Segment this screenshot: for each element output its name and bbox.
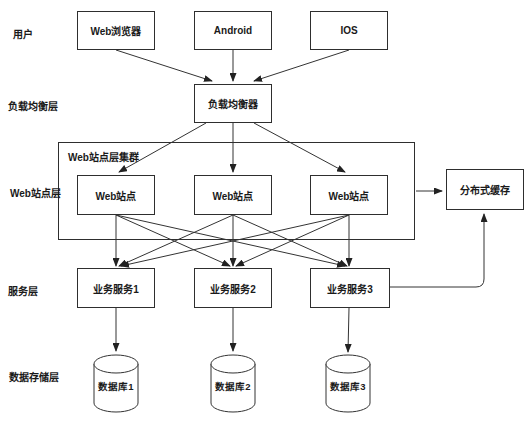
node-web-site-3: Web站点 xyxy=(310,175,388,215)
node-database-2-label: 数据库2 xyxy=(201,379,265,393)
arrow-web1-to-svc2 xyxy=(116,215,230,266)
arrow-lb-to-web1 xyxy=(119,123,206,172)
arrow-web2-to-svc3 xyxy=(233,215,347,266)
layer-label-services: 服务层 xyxy=(8,283,38,298)
arrow-svc3-to-cache xyxy=(390,214,484,287)
layer-label-storage: 数据存储层 xyxy=(9,369,59,384)
node-database-1-label: 数据库1 xyxy=(84,379,148,393)
layer-label-load-balancer: 负载均衡层 xyxy=(8,98,58,113)
node-android: Android xyxy=(194,11,272,50)
node-web-browser: Web浏览器 xyxy=(77,11,155,50)
node-distributed-cache: 分布式缓存 xyxy=(446,169,524,210)
node-service-3: 业务服务3 xyxy=(310,268,390,308)
architecture-diagram: 用户 负载均衡层 Web站点层 服务层 数据存储层 Web站点层集群 xyxy=(0,0,532,422)
node-load-balancer: 负载均衡器 xyxy=(194,84,272,123)
layer-label-users: 用户 xyxy=(13,26,33,41)
node-ios: IOS xyxy=(310,11,388,50)
node-web-site-2: Web站点 xyxy=(194,175,272,215)
node-service-1: 业务服务1 xyxy=(77,268,155,308)
layer-label-web: Web站点层 xyxy=(10,185,61,200)
node-database-3-label: 数据库3 xyxy=(316,379,380,393)
arrow-browser-to-lb xyxy=(116,50,212,81)
node-service-2: 业务服务2 xyxy=(194,268,272,308)
arrow-ios-to-lb xyxy=(254,50,349,81)
node-web-site-1: Web站点 xyxy=(77,175,155,215)
arrow-web3-to-svc2 xyxy=(236,215,349,266)
arrow-web2-to-svc1 xyxy=(119,215,233,266)
arrow-web1-to-svc3 xyxy=(116,215,345,266)
arrow-web3-to-svc1 xyxy=(121,215,349,266)
arrow-lb-to-web3 xyxy=(254,123,345,172)
arrow-svc3-to-db3 xyxy=(348,308,349,352)
